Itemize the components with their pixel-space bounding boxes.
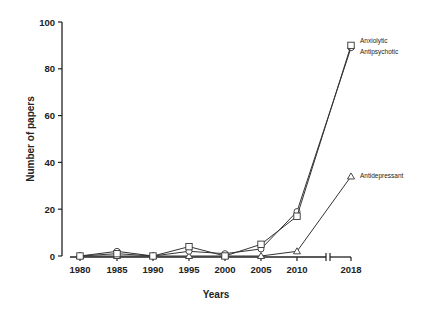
y-tick-label: 60 [44, 110, 55, 121]
x-tick-label: 2018 [340, 264, 361, 275]
x-tick-label: 2000 [214, 264, 235, 275]
data-point-triangle [348, 173, 355, 179]
series-layer: AnxiolyticAntipsychoticAntidepressant [77, 37, 404, 259]
y-tick-label: 40 [44, 157, 55, 168]
series-antipsychotic [77, 45, 354, 259]
y-tick-label: 0 [50, 251, 55, 262]
data-point-square [258, 241, 264, 247]
series-line [80, 45, 351, 256]
x-tick-label: 1980 [69, 264, 90, 275]
y-tick-label: 80 [44, 63, 55, 74]
x-tick-label: 1990 [142, 264, 163, 275]
data-point-square [114, 250, 120, 256]
series-line [80, 48, 351, 256]
series-label: Antidepressant [360, 172, 404, 180]
y-tick-label: 20 [44, 204, 55, 215]
series-anxiolytic [77, 42, 354, 259]
data-point-square [348, 42, 354, 48]
series-antidepressant [77, 173, 355, 259]
data-point-square [222, 253, 228, 259]
x-tick-label: 2005 [250, 264, 272, 275]
data-point-square [77, 253, 83, 259]
y-axis-title: Number of papers [25, 96, 36, 182]
y-tick-label: 100 [39, 17, 55, 28]
data-point-square [294, 213, 300, 219]
data-point-square [186, 243, 192, 249]
line-chart: 020406080100 198019851990199520002005201… [0, 0, 424, 312]
x-tick-label: 2010 [286, 264, 307, 275]
y-axis: 020406080100 [39, 17, 62, 262]
x-axis-title: Years [203, 289, 230, 300]
series-label: Anxiolytic [360, 37, 388, 45]
series-line [80, 176, 351, 256]
x-tick-label: 1985 [106, 264, 128, 275]
x-tick-label: 1995 [178, 264, 200, 275]
data-point-square [150, 253, 156, 259]
series-label: Antipsychotic [360, 48, 399, 56]
